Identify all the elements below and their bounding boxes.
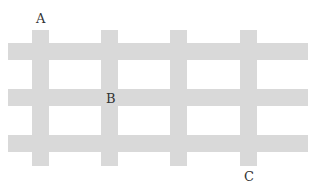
horizontal-street-2 [8, 89, 308, 106]
horizontal-street-1 [8, 43, 308, 60]
point-label-a: A [36, 12, 45, 25]
vertical-street-3 [170, 30, 187, 166]
point-label-b: B [106, 92, 116, 105]
vertical-street-4 [240, 30, 257, 166]
point-label-c: C [244, 170, 254, 183]
vertical-street-1 [32, 30, 49, 166]
horizontal-street-3 [8, 135, 308, 152]
street-grid-diagram: A B C [0, 0, 316, 191]
